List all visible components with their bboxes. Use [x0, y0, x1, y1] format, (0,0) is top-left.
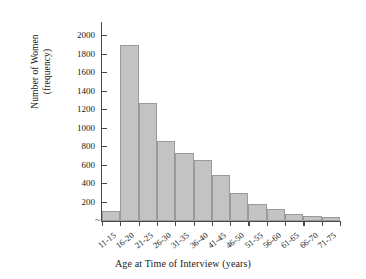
histogram-chart: Number of Women (frequency) ~ 2004006008… [0, 0, 366, 279]
x-axis-tick-labels: 11-1516-2021-2526-3031-3536-4041-4546-50… [0, 0, 366, 279]
x-axis-title: Age at Time of Interview (years) [0, 258, 366, 269]
